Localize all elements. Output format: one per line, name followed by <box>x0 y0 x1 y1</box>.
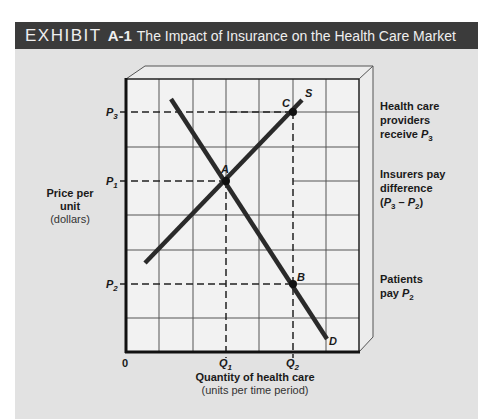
label-s: S <box>305 87 313 99</box>
label-a: A <box>220 163 229 175</box>
annotation-insurers: Insurers pay difference (P3 – P2) <box>380 167 445 214</box>
svg-text:Q1: Q1 <box>219 357 233 372</box>
label-d: D <box>329 335 337 347</box>
svg-text:P2: P2 <box>106 278 118 293</box>
point-c <box>289 108 297 116</box>
point-a <box>222 177 230 185</box>
annotation-providers: Health care providers receive P3 <box>380 99 439 146</box>
svg-text:P1: P1 <box>106 175 118 190</box>
x-tick-labels: 0 Q1 Q2 <box>122 357 300 372</box>
origin-label: 0 <box>122 357 128 369</box>
x-axis-title: Quantity of health care (units per time … <box>180 371 330 397</box>
annotation-patients: Patients pay P2 <box>380 272 423 305</box>
y-axis-title: Price per unit (dollars) <box>40 187 100 226</box>
svg-text:Q2: Q2 <box>286 357 300 372</box>
point-b <box>289 280 297 288</box>
y-tick-labels: P3 P1 P2 <box>106 106 118 293</box>
label-c: C <box>282 97 291 109</box>
label-b: B <box>297 271 305 283</box>
svg-text:P3: P3 <box>106 106 118 121</box>
